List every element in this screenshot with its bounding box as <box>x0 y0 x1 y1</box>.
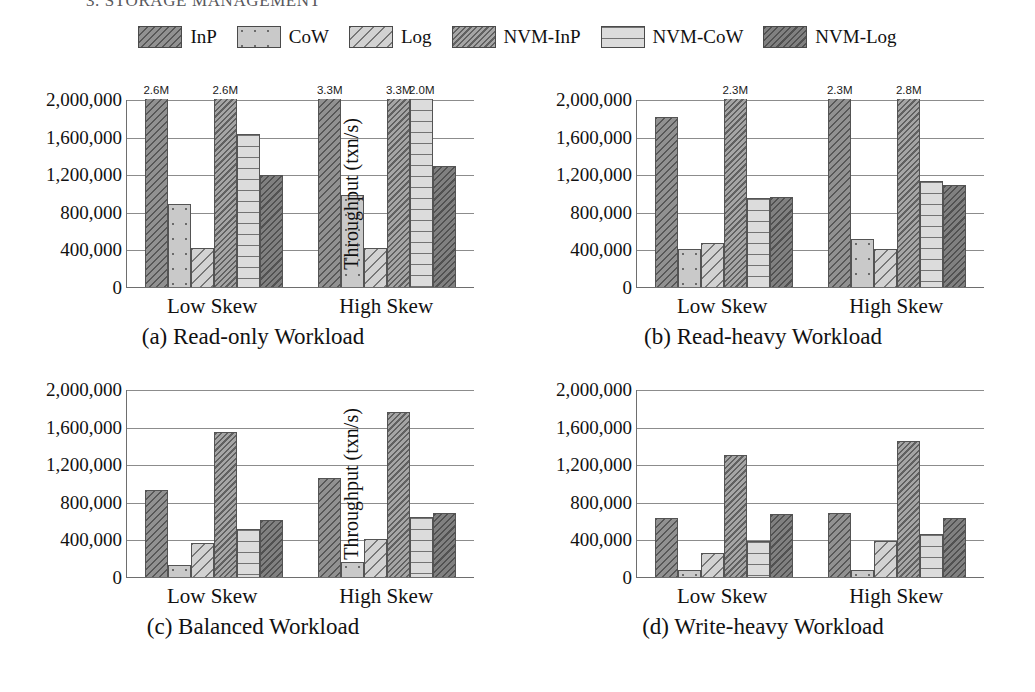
x-tick-label: Low Skew <box>167 294 257 319</box>
chart-panel-d: Throughput (txn/s)0400,000800,0001,200,0… <box>528 376 998 666</box>
x-tick-label: High Skew <box>339 294 433 319</box>
bar-cow <box>851 570 874 577</box>
bar-log <box>874 249 897 287</box>
legend-label: Log <box>401 26 432 48</box>
x-tick-label: Low Skew <box>167 584 257 609</box>
y-tick-label: 1,600,000 <box>482 127 632 149</box>
y-tick-label: 1,600,000 <box>0 127 122 149</box>
bar-nvm-inp <box>724 455 747 577</box>
bar-nvm-inp <box>897 441 920 577</box>
bar-cow <box>678 249 701 287</box>
legend-swatch-inp-icon <box>138 26 182 48</box>
bar-nvm-inp <box>214 432 237 577</box>
bar-nvm-log <box>943 518 966 577</box>
y-tick-label: 1,200,000 <box>0 454 122 476</box>
y-tick-label: 400,000 <box>482 529 632 551</box>
y-tick-label: 2,000,000 <box>0 89 122 111</box>
chart-panel-a: Throughput (txn/s)0400,000800,0001,200,0… <box>18 86 488 376</box>
bar-nvm-cow <box>747 541 770 577</box>
y-tick-label: 400,000 <box>0 529 122 551</box>
bar-groups: 2.3M2.3M2.8M <box>637 100 984 287</box>
bar-nvm-cow <box>237 134 260 287</box>
y-tick-label: 800,000 <box>0 492 122 514</box>
running-head: 3. STORAGE MANAGEMENT <box>86 0 321 11</box>
chart-panel-b: Throughput (txn/s)0400,000800,0001,200,0… <box>528 86 998 376</box>
y-tick-label: 2,000,000 <box>482 379 632 401</box>
bar-inp <box>318 478 341 577</box>
legend-swatch-cow-icon <box>237 26 281 48</box>
y-axis-label: Throughput (txn/s) <box>340 384 364 584</box>
bar-log <box>191 248 214 287</box>
bar-nvm-cow: 2.0M <box>410 99 433 287</box>
bar-cow <box>168 204 191 287</box>
bar-group-high-skew <box>318 390 456 577</box>
bar-group-low-skew: 2.6M2.6M <box>145 100 283 287</box>
bar-cow <box>851 239 874 287</box>
x-tick-label: High Skew <box>849 584 943 609</box>
y-tick-label: 400,000 <box>482 239 632 261</box>
bar-inp <box>828 513 851 577</box>
bar-cow <box>168 565 191 577</box>
bar-groups: 2.6M2.6M3.3M3.3M2.0M <box>127 100 474 287</box>
bar-value-label: 3.3M <box>317 84 343 96</box>
y-tick-label: 400,000 <box>0 239 122 261</box>
bar-groups <box>637 390 984 577</box>
bar-value-label: 2.0M <box>409 84 435 96</box>
bar-nvm-cow <box>410 517 433 577</box>
bar-log <box>701 243 724 287</box>
x-axis-tick-labels: Low SkewHigh Skew <box>126 584 474 609</box>
y-tick-label: 0 <box>482 277 632 299</box>
y-tick-label: 0 <box>0 567 122 589</box>
axes-frame <box>126 390 474 578</box>
y-tick-label: 800,000 <box>482 202 632 224</box>
bar-nvm-inp: 2.3M <box>724 99 747 287</box>
legend-entry-nvm-cow: NVM-CoW <box>601 26 744 48</box>
axes-frame: 2.6M2.6M3.3M3.3M2.0M <box>126 100 474 288</box>
bar-nvm-inp: 3.3M <box>387 99 410 287</box>
legend-label: NVM-Log <box>815 26 896 48</box>
bar-value-label: 3.3M <box>386 84 412 96</box>
bar-nvm-log <box>770 197 793 287</box>
bar-nvm-cow <box>920 181 943 287</box>
bar-inp <box>655 117 678 287</box>
panel-caption: (a) Read-only Workload <box>18 324 488 350</box>
bar-log <box>364 539 387 577</box>
bar-cow <box>678 570 701 577</box>
bar-nvm-inp <box>387 412 410 577</box>
bar-inp: 2.6M <box>145 99 168 287</box>
bar-group-high-skew: 3.3M3.3M2.0M <box>318 100 456 287</box>
x-tick-label: High Skew <box>849 294 943 319</box>
legend-entry-nvm-inp: NVM-InP <box>452 26 581 48</box>
bar-group-low-skew <box>145 390 283 577</box>
legend-entry-nvm-log: NVM-Log <box>763 26 896 48</box>
bar-groups <box>127 390 474 577</box>
y-tick-label: 800,000 <box>0 202 122 224</box>
bar-inp: 3.3M <box>318 99 341 287</box>
bar-nvm-log <box>433 513 456 577</box>
axes-frame: 2.3M2.3M2.8M <box>636 100 984 288</box>
bar-nvm-cow <box>237 529 260 577</box>
x-axis-tick-labels: Low SkewHigh Skew <box>636 584 984 609</box>
chart-legend: InPCoWLogNVM-InPNVM-CoWNVM-Log <box>0 26 1035 48</box>
panel-caption: (c) Balanced Workload <box>18 614 488 640</box>
x-axis-tick-labels: Low SkewHigh Skew <box>636 294 984 319</box>
plot-area: 0400,000800,0001,200,0001,600,0002,000,0… <box>126 390 474 578</box>
legend-label: NVM-CoW <box>653 26 744 48</box>
bar-nvm-log <box>260 175 283 287</box>
bar-nvm-log <box>943 185 966 287</box>
bar-group-low-skew: 2.3M <box>655 100 793 287</box>
y-axis-label: Throughput (txn/s) <box>340 94 364 294</box>
legend-swatch-log-icon <box>349 26 393 48</box>
x-tick-label: Low Skew <box>677 584 767 609</box>
legend-swatch-nvm-inp-icon <box>452 26 496 48</box>
chart-panel-c: Throughput (txn/s)0400,000800,0001,200,0… <box>18 376 488 666</box>
bar-group-low-skew <box>655 390 793 577</box>
y-tick-label: 0 <box>482 567 632 589</box>
bar-nvm-cow <box>920 534 943 577</box>
legend-entry-cow: CoW <box>237 26 329 48</box>
plot-area: 0400,000800,0001,200,0001,600,0002,000,0… <box>636 390 984 578</box>
y-tick-label: 1,600,000 <box>482 417 632 439</box>
bar-log <box>874 541 897 577</box>
y-tick-label: 2,000,000 <box>0 379 122 401</box>
bar-inp <box>655 518 678 577</box>
